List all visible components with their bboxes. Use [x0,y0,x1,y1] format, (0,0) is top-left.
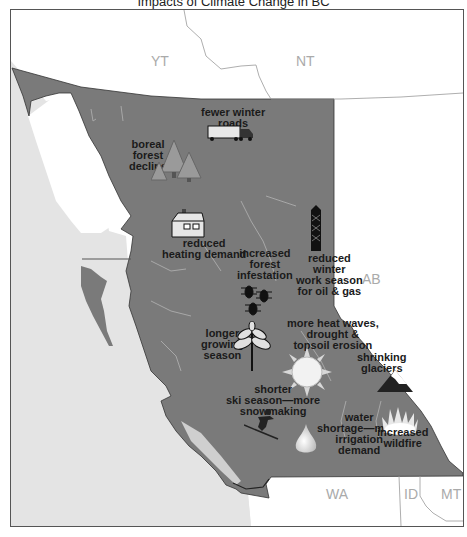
beetles-icon [240,284,276,318]
region-label-id: ID [404,486,418,502]
impact-label-heating: reduced heating demand [162,238,246,260]
impact-label-infestation: increased forest infestation [237,248,293,281]
map-frame: YT NT AB WA ID MT fewer winter roads bor… [10,9,464,527]
label-line: for oil & gas [296,286,363,297]
house-icon [170,209,206,239]
impact-label-wildfire: increased wildfire [377,427,428,449]
trees-icon [151,140,206,182]
mountain-icon [377,370,413,392]
region-label-wa: WA [326,486,348,502]
label-line: wildfire [377,438,428,449]
region-label-nt: NT [296,53,315,69]
label-line: heating demand [162,249,246,260]
skier-icon [244,409,280,441]
oil-derrick-icon [308,205,324,253]
impact-label-oil-gas: reduced winter work season for oil & gas [296,253,363,297]
map-title: Impacts of Climate Change in BC [0,0,467,9]
region-label-mt: MT [441,486,461,502]
region-label-ab: AB [362,271,381,287]
label-line: infestation [237,270,293,281]
truck-icon [207,124,259,144]
leaf-icon [229,321,275,371]
water-drop-icon [294,424,318,456]
region-label-yt: YT [151,53,169,69]
